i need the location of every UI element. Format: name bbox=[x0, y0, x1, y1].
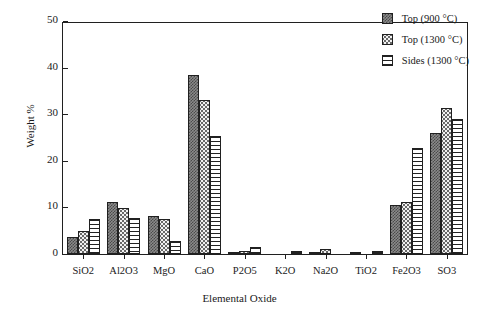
bar-fe2o3-series1 bbox=[390, 205, 401, 254]
x-tick-mark bbox=[285, 254, 286, 259]
x-tick-mark bbox=[245, 254, 246, 259]
legend-swatch-1 bbox=[382, 13, 393, 24]
x-tick-mark bbox=[366, 254, 367, 259]
x-tick-mark bbox=[124, 254, 125, 259]
bar-chart-figure: Weight % 01020304050 SiO2Al2O3MgOCaOP2O5… bbox=[0, 0, 479, 321]
bar-sio2-series2 bbox=[78, 231, 89, 254]
y-tick-label: 10 bbox=[47, 199, 58, 211]
y-tick-label: 50 bbox=[47, 13, 58, 25]
legend-swatch-3 bbox=[382, 55, 393, 66]
chart-legend: Top (900 °C)Top (1300 °C)Sides (1300 °C) bbox=[382, 8, 469, 71]
y-tick-label: 20 bbox=[47, 153, 58, 165]
bar-p2o5-series1 bbox=[228, 252, 239, 254]
legend-item-2: Top (1300 °C) bbox=[382, 29, 469, 50]
bar-group-cao: CaO bbox=[184, 23, 224, 254]
y-tick-mark bbox=[63, 21, 68, 22]
bar-group-k2o: K2O bbox=[265, 23, 305, 254]
bar-al2o3-series3 bbox=[129, 218, 140, 254]
bar-fe2o3-series3 bbox=[412, 148, 423, 254]
x-tick-label-al2o3: Al2O3 bbox=[109, 265, 138, 276]
x-tick-label-fe2o3: Fe2O3 bbox=[392, 265, 421, 276]
legend-label-3: Sides (1300 °C) bbox=[402, 55, 469, 66]
bar-sio2-series3 bbox=[89, 219, 100, 254]
legend-swatch-2 bbox=[382, 34, 393, 45]
bar-al2o3-series2 bbox=[118, 208, 129, 254]
legend-label-1: Top (900 °C) bbox=[402, 13, 457, 24]
bar-na2o-series1 bbox=[309, 252, 320, 254]
legend-item-3: Sides (1300 °C) bbox=[382, 50, 469, 71]
x-tick-label-p2o5: P2O5 bbox=[233, 265, 257, 276]
bar-mgo-series3 bbox=[170, 241, 181, 255]
bar-group-sio2: SiO2 bbox=[63, 23, 103, 254]
x-tick-mark bbox=[83, 254, 84, 259]
x-tick-mark bbox=[204, 254, 205, 259]
bar-mgo-series1 bbox=[148, 216, 159, 254]
bar-group-tio2: TiO2 bbox=[346, 23, 386, 254]
bar-so3-series1 bbox=[430, 133, 441, 254]
y-tick-label: 30 bbox=[47, 106, 58, 118]
bar-cao-series3 bbox=[210, 136, 221, 254]
y-tick-label: 0 bbox=[53, 246, 59, 258]
bar-group-al2o3: Al2O3 bbox=[103, 23, 143, 254]
y-tick-mark bbox=[63, 254, 68, 255]
x-tick-mark bbox=[406, 254, 407, 259]
bar-cao-series1 bbox=[188, 75, 199, 254]
x-axis-title: Elemental Oxide bbox=[0, 292, 479, 304]
bar-group-mgo: MgO bbox=[144, 23, 184, 254]
bar-mgo-series2 bbox=[159, 219, 170, 254]
bar-group-na2o: Na2O bbox=[305, 23, 345, 254]
x-tick-label-na2o: Na2O bbox=[313, 265, 338, 276]
bar-fe2o3-series2 bbox=[401, 202, 412, 254]
y-axis-title: Weight % bbox=[24, 66, 36, 186]
legend-label-2: Top (1300 °C) bbox=[402, 34, 463, 45]
x-tick-mark bbox=[326, 254, 327, 259]
bar-cao-series2 bbox=[199, 100, 210, 254]
x-tick-mark bbox=[447, 254, 448, 259]
x-tick-label-tio2: TiO2 bbox=[355, 265, 377, 276]
bar-group-p2o5: P2O5 bbox=[225, 23, 265, 254]
x-tick-label-so3: SO3 bbox=[438, 265, 457, 276]
x-tick-label-k2o: K2O bbox=[275, 265, 295, 276]
x-tick-label-cao: CaO bbox=[195, 265, 214, 276]
x-tick-mark bbox=[164, 254, 165, 259]
bar-tio2-series1 bbox=[350, 252, 361, 254]
bar-so3-series3 bbox=[452, 119, 463, 254]
legend-item-1: Top (900 °C) bbox=[382, 8, 469, 29]
x-tick-label-sio2: SiO2 bbox=[72, 265, 94, 276]
x-tick-label-mgo: MgO bbox=[153, 265, 175, 276]
bar-p2o5-series3 bbox=[250, 247, 261, 254]
y-tick-label: 40 bbox=[47, 60, 58, 72]
bar-sio2-series1 bbox=[67, 237, 78, 254]
bar-k2o-series3 bbox=[291, 251, 302, 254]
bar-so3-series2 bbox=[441, 108, 452, 254]
bar-tio2-series3 bbox=[372, 251, 383, 254]
bar-al2o3-series1 bbox=[107, 202, 118, 254]
